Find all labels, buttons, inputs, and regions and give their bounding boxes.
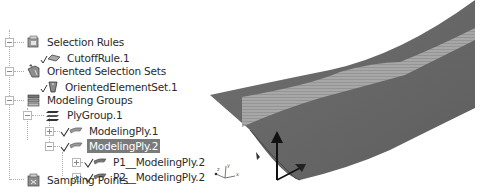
sampling-points-icon: [26, 173, 42, 187]
modeling-ply-icon: [60, 124, 84, 138]
tree-item-label: Oriented Selection Sets: [45, 64, 168, 78]
3d-viewport[interactable]: y x z: [200, 0, 480, 195]
collapse-toggle[interactable]: [45, 142, 54, 151]
selection-rules-icon: [26, 35, 42, 49]
tree-item-label: P1__ModelingPly.2: [111, 155, 207, 169]
svg-text:x: x: [236, 171, 239, 177]
tree-item-ply-group[interactable]: PlyGroup.1: [46, 107, 124, 123]
tree-item-modeling-groups[interactable]: Modeling Groups: [26, 92, 135, 108]
tree-line: [10, 179, 24, 180]
tree-item-label: Modeling Groups: [45, 93, 135, 107]
tree-item-sampling-points[interactable]: Sampling Points: [26, 172, 130, 188]
oriented-selection-sets-icon: [26, 64, 42, 78]
tree-item-production-ply-p1[interactable]: P1__ModelingPly.2: [84, 154, 207, 170]
expand-toggle[interactable]: [72, 158, 81, 167]
tree-line: [14, 42, 24, 43]
collapse-toggle[interactable]: [5, 96, 14, 105]
svg-text:y: y: [227, 162, 230, 169]
tree-line: [32, 115, 44, 116]
tree-item-modeling-ply-2[interactable]: ModelingPly.2: [60, 138, 160, 154]
production-ply-icon: [84, 155, 108, 169]
tree-item-modeling-ply-1[interactable]: ModelingPly.1: [60, 123, 160, 139]
tree-line: [14, 100, 24, 101]
tree-item-label: ModelingPly.1: [87, 124, 160, 138]
collapse-toggle[interactable]: [5, 38, 14, 47]
ply-group-icon: [46, 108, 62, 122]
tree-item-selection-rules[interactable]: Selection Rules: [26, 34, 126, 50]
collapse-toggle[interactable]: [23, 111, 32, 120]
tree-line: [9, 30, 10, 180]
tree-item-label: PlyGroup.1: [65, 108, 124, 122]
axis-triad-icon: y x z: [213, 160, 243, 185]
collapse-toggle[interactable]: [5, 67, 14, 76]
tree-item-label: ModelingPly.2: [87, 139, 160, 153]
model-tree: Selection Rules CutoffRule.1 Oriented Se…: [0, 0, 200, 195]
modeling-groups-icon: [26, 93, 42, 107]
modeling-ply-icon: [60, 139, 84, 153]
svg-text:z: z: [217, 166, 220, 172]
tree-item-label: Sampling Points: [45, 173, 130, 187]
tree-line: [14, 71, 24, 72]
tree-item-label: Selection Rules: [45, 35, 126, 49]
tree-item-oriented-selection-sets[interactable]: Oriented Selection Sets: [26, 63, 168, 79]
expand-toggle[interactable]: [45, 127, 54, 136]
